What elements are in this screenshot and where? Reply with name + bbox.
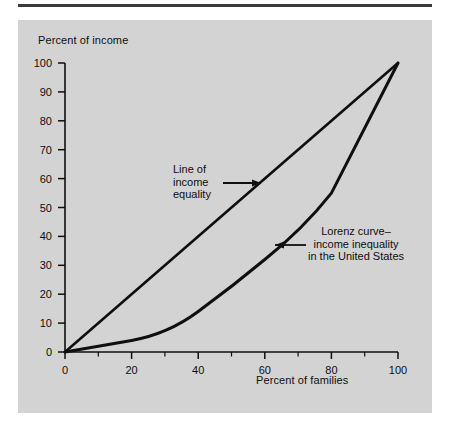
annotation-lorenz-line-2: income inequality: [308, 238, 404, 251]
y-tick-label-40: 40: [24, 230, 52, 242]
x-tick-label-40: 40: [183, 364, 213, 376]
y-tick-label-0: 0: [24, 346, 52, 358]
annotation-lorenz-curve: Lorenz curve– income inequality in the U…: [308, 225, 404, 263]
y-tick-label-10: 10: [24, 317, 52, 329]
y-tick-label-90: 90: [24, 86, 52, 98]
y-tick-label-50: 50: [24, 202, 52, 214]
y-tick-label-100: 100: [24, 57, 52, 69]
annotation-equality-line-3: equality: [173, 188, 211, 201]
y-tick-label-20: 20: [24, 288, 52, 300]
y-axis-ticks: [58, 63, 65, 352]
lorenz-curve-plot: [18, 20, 432, 413]
y-tick-label-80: 80: [24, 115, 52, 127]
y-tick-label-30: 30: [24, 259, 52, 271]
x-tick-label-100: 100: [383, 364, 413, 376]
annotation-line-of-income-equality: Line of income equality: [173, 163, 211, 201]
series-line-of-income-equality: [65, 63, 398, 352]
y-tick-label-70: 70: [24, 144, 52, 156]
annotation-equality-line-2: income: [173, 176, 211, 189]
chart-figure-panel: Percent of income Percent of families 10…: [18, 20, 432, 413]
annotation-equality-line-1: Line of: [173, 163, 211, 176]
x-tick-label-80: 80: [316, 364, 346, 376]
annotation-lorenz-line-1: Lorenz curve–: [308, 225, 404, 238]
y-axis-title: Percent of income: [38, 34, 128, 46]
x-tick-label-0: 0: [50, 364, 80, 376]
y-tick-label-60: 60: [24, 173, 52, 185]
x-tick-label-20: 20: [117, 364, 147, 376]
annotation-lorenz-line-3: in the United States: [308, 250, 404, 263]
top-divider-rule: [18, 4, 432, 7]
x-tick-label-60: 60: [250, 364, 280, 376]
